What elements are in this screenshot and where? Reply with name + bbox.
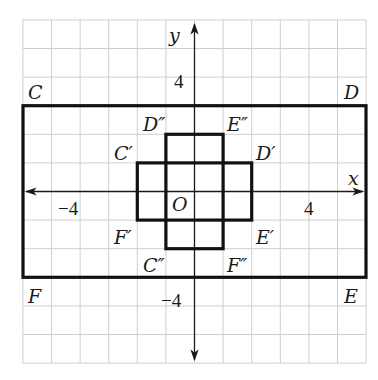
origin-label: O (172, 193, 188, 215)
vertex-label-e: E (343, 285, 358, 307)
vertex-label-c: C (28, 81, 43, 103)
vertex-label-f: F (27, 285, 42, 307)
tick-y-neg-4: −4 (161, 290, 182, 311)
tick-x-neg-4: −4 (58, 198, 79, 219)
vertex-label-c-double-prime: C″ (143, 254, 165, 276)
tick-y-pos-4: 4 (174, 71, 184, 92)
vertex-label-f-double-prime: F″ (226, 254, 247, 276)
vertex-label-f-prime: F′ (113, 226, 132, 248)
vertex-label-d-prime: D′ (255, 142, 276, 164)
x-axis-label: x (348, 167, 359, 189)
coordinate-plane-diagram: y x O 4 −4 −4 4 C D E F C′ D′ E′ F′ D″ E… (0, 0, 378, 380)
vertex-label-c-prime: C′ (114, 142, 134, 164)
y-axis-label: y (168, 24, 180, 46)
vertex-label-e-double-prime: E″ (226, 113, 248, 135)
vertex-label-e-prime: E′ (255, 226, 275, 248)
tick-x-pos-4: 4 (304, 198, 314, 219)
vertex-label-d: D (343, 81, 359, 103)
vertex-label-d-double-prime: D″ (142, 113, 165, 135)
